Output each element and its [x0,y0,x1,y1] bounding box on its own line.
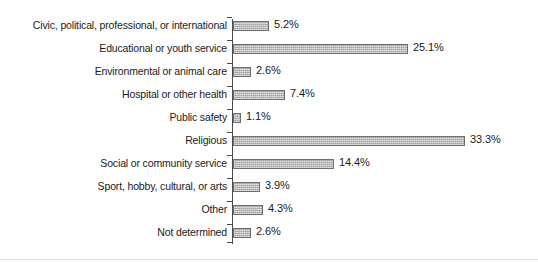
category-label: Sport, hobby, cultural, or arts [0,180,227,192]
category-label: Public safety [0,111,227,123]
bar-row: Hospital or other health 7.4% [0,85,538,108]
category-label: Other [0,203,227,215]
axis-tick [227,132,232,133]
bar-chart-figure: Civic, political, professional, or inter… [0,0,538,267]
value-label: 14.4% [339,156,370,169]
bar [233,113,241,123]
value-label: 5.2% [274,18,299,31]
category-label: Educational or youth service [0,42,227,54]
axis-tick [227,201,232,202]
axis-tick [227,86,232,87]
bar-row: Sport, hobby, cultural, or arts 3.9% [0,177,538,200]
bar [233,159,334,169]
axis-tick [227,224,232,225]
bar-row: Other 4.3% [0,200,538,223]
axis-tick-end [227,242,232,243]
axis-tick [227,109,232,110]
bar-row: Religious 33.3% [0,131,538,154]
bar [233,90,285,100]
category-label: Religious [0,134,227,146]
axis-tick [227,63,232,64]
value-label: 2.6% [256,64,281,77]
axis-tick [227,17,232,18]
plot-area: Civic, political, professional, or inter… [0,16,538,248]
bar [233,67,251,77]
bar [233,205,263,215]
value-label: 33.3% [470,133,501,146]
axis-tick [227,178,232,179]
bar [233,21,269,31]
bar-row: Educational or youth service 25.1% [0,39,538,62]
category-label: Environmental or animal care [0,65,227,77]
bar-row: Environmental or animal care 2.6% [0,62,538,85]
axis-tick [227,40,232,41]
category-label: Hospital or other health [0,88,227,100]
axis-tick [227,155,232,156]
bar [233,182,260,192]
value-label: 3.9% [265,179,290,192]
category-label: Social or community service [0,157,227,169]
bar [233,136,465,146]
bar-row: Social or community service 14.4% [0,154,538,177]
value-label: 1.1% [246,110,271,123]
value-label: 2.6% [256,225,281,238]
bar-row: Public safety 1.1% [0,108,538,131]
bottom-divider [0,259,538,260]
value-label: 25.1% [413,41,444,54]
category-label: Not determined [0,226,227,238]
bar-row: Civic, political, professional, or inter… [0,16,538,39]
value-label: 7.4% [290,87,315,100]
bar [233,228,251,238]
category-label: Civic, political, professional, or inter… [0,19,227,31]
value-label: 4.3% [268,202,293,215]
bar [233,44,408,54]
bar-row: Not determined 2.6% [0,223,538,246]
